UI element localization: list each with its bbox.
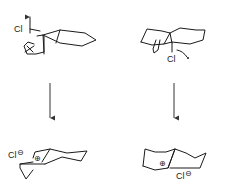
curved-electron-arrow-icon [177,50,187,57]
right-product-cl-label: Cl [176,171,185,181]
right-reactant-lower-bonds [153,40,160,53]
right-product-fusion-bond [168,149,175,168]
reaction-scheme: Cl Cl ⊕ Cl ⊖ ⊕ Cl ⊖ [0,0,226,194]
left-reactant-ring-right [43,30,96,46]
left-reactant-fusion-bond [56,30,60,43]
left-product-cl-label: Cl [8,150,17,160]
electron-dot-icon [187,57,189,59]
left-product-fusion-bond [42,149,50,162]
left-product-ring-right [33,149,87,164]
right-product-cation-charge: ⊕ [159,159,166,168]
right-reactant-molecule: Cl [141,28,205,64]
right-product-cl-charge: ⊖ [185,169,192,178]
right-product-ring-right [170,149,206,168]
left-product-molecule: ⊕ Cl ⊖ [8,148,87,179]
right-product-molecule: ⊕ Cl ⊖ [143,149,206,181]
right-reactant-cl-label: Cl [167,54,176,64]
left-reactant-cl-label: Cl [14,24,23,34]
right-reactant-fusion-bond [170,33,172,43]
left-product-cl-charge: ⊖ [17,148,24,157]
left-reactant-molecule: Cl [14,17,96,54]
left-product-cation-charge: ⊕ [34,154,41,163]
left-product-ring-left [20,164,45,179]
left-reactant-cl-bond [30,29,40,31]
